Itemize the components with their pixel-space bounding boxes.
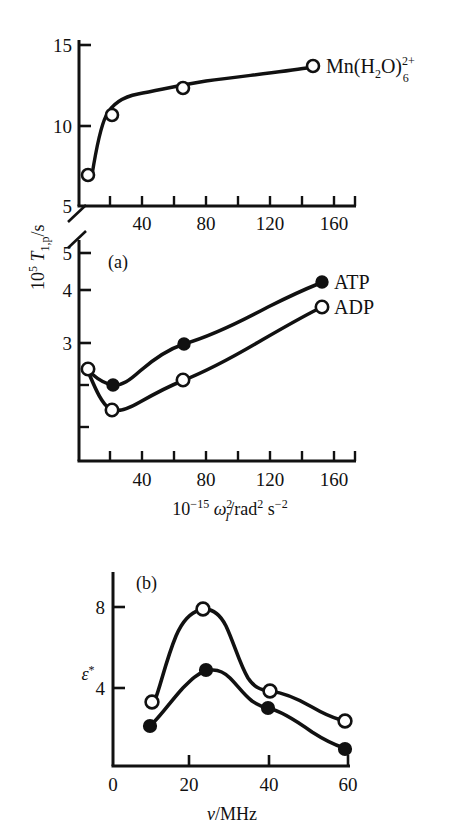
mn-label-sup: 2+ — [402, 54, 415, 68]
panel-a-bottom: 5 4 3 40 80 120 160 (a) — [63, 240, 375, 524]
xtitle-units-s-sup: −2 — [275, 497, 288, 511]
panel-a-bottom-curve-adp — [90, 309, 318, 411]
panel-a-top-xlabel-80: 80 — [197, 213, 216, 234]
y-title-symbol-sub: 1,p — [38, 236, 52, 251]
panel-a-bottom-atp-point-2 — [107, 379, 118, 390]
panel-a-top-ylabel-15: 15 — [53, 35, 72, 56]
panel-a-top-xlabel-160: 160 — [320, 213, 349, 234]
panel-b-ylabel-4: 4 — [96, 678, 106, 699]
panel-b-y-axis-title: ε* — [81, 663, 94, 684]
panel-b-ylabel-8: 8 — [96, 597, 106, 618]
mn-label-part1: Mn(H — [326, 55, 375, 78]
panel-a-bottom-atp-point-1 — [82, 363, 94, 375]
panel-b-filled-point-3 — [262, 702, 274, 714]
panel-a-bottom-xlabel-40: 40 — [133, 469, 152, 490]
panel-a-top-series-label: Mn(H2O)2+6 — [326, 54, 415, 85]
panel-b-filled-point-1 — [144, 720, 156, 732]
panel-a-bottom-atp-point-4 — [316, 276, 327, 287]
svg-text:105 T1,p/s: 105 T1,p/s — [26, 224, 52, 290]
panel-a-bottom-ylabel-5: 5 — [63, 243, 73, 264]
y-title-units: /s — [28, 224, 48, 236]
panel-b-xtitle-units: /MHz — [215, 804, 257, 824]
panel-a-top-xlabel-120: 120 — [256, 213, 285, 234]
xtitle-units-s: s — [268, 499, 275, 519]
panel-a-top-point-1 — [82, 169, 94, 181]
panel-a-bottom-label-adp: ADP — [334, 296, 374, 318]
panel-b-open-point-1 — [146, 696, 159, 709]
panel-a-label: (a) — [108, 252, 128, 273]
panel-a-bottom-xlabel-160: 160 — [320, 469, 349, 490]
panel-a-bottom-xlabel-80: 80 — [197, 469, 216, 490]
panel-a-top-point-2 — [106, 109, 118, 121]
panel-a-bottom-atp-point-3 — [178, 338, 189, 349]
panel-a-top-ylabel-10: 10 — [53, 116, 72, 137]
panel-b-xlabel-0: 0 — [108, 774, 118, 795]
panel-a-bottom-adp-point-4 — [316, 301, 328, 313]
panel-a-top-xlabel-40: 40 — [133, 213, 152, 234]
panel-b-curve-open — [155, 609, 341, 720]
panel-b-xlabel-60: 60 — [339, 774, 358, 795]
y-title-lead: 10 — [28, 272, 48, 290]
mn-label-part2: O) — [381, 55, 402, 78]
panel-b-open-point-3 — [264, 685, 277, 698]
figure-svg: 105 T1,p/s 15 10 5 — [0, 0, 458, 836]
panel-b-xlabel-40: 40 — [260, 774, 279, 795]
panel-a-bottom-ylabel-4: 4 — [63, 280, 73, 301]
figure-container: 105 T1,p/s 15 10 5 — [0, 0, 458, 836]
panel-a-bottom-ylabel-3: 3 — [63, 333, 73, 354]
xtitle-lead: 10 — [172, 499, 190, 519]
panel-a-bottom-xlabel-120: 120 — [256, 469, 285, 490]
panel-b-label: (b) — [136, 573, 157, 594]
panel-b-filled-point-4 — [339, 743, 351, 755]
panel-a-bottom-adp-point-2 — [106, 404, 118, 416]
panel-b-x-axis-title: ν/MHz — [207, 804, 257, 824]
xtitle-units: /rad — [229, 499, 257, 519]
panel-b-xlabel-20: 20 — [180, 774, 199, 795]
panel-a-bottom-adp-point-3 — [177, 374, 189, 386]
panel-b-ytitle-sup: * — [89, 663, 95, 677]
panel-b-xtitle-symbol: ν — [207, 804, 215, 824]
panel-a-top-curve-mn — [92, 68, 307, 175]
panel-b-filled-point-2 — [200, 664, 212, 676]
panel-a-top-point-4 — [307, 60, 319, 72]
panel-a-bottom-label-atp: ATP — [334, 271, 370, 293]
mn-label-sub2: 6 — [403, 71, 409, 85]
panel-b-open-point-2 — [197, 603, 210, 616]
xtitle-exp: −15 — [190, 497, 209, 511]
shared-y-axis-title: 105 T1,p/s — [26, 224, 52, 290]
panel-b: 8 4 0 20 40 60 (b) ε* ν/MHz — [81, 572, 357, 824]
panel-a-top-point-3 — [177, 82, 189, 94]
panel-a-x-axis-title: 10−15 ω2I/rad2 s−2 — [172, 497, 287, 524]
panel-a-top-ylabel-5: 5 — [63, 196, 73, 217]
panel-a-top: 15 10 5 40 80 120 160 — [53, 35, 415, 234]
panel-b-open-point-4 — [339, 715, 352, 728]
